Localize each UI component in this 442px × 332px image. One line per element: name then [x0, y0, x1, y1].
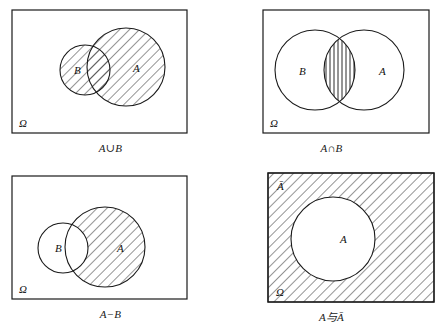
label-a: A — [116, 242, 124, 254]
venn-figure-grid: B A Ω A∪B B A Ω A∩B — [0, 0, 442, 332]
caption-complement: A与Ā — [221, 308, 442, 324]
label-b: B — [299, 65, 306, 77]
circle-a — [291, 197, 375, 281]
panel-complement: A Ā Ω A与Ā — [221, 166, 442, 332]
panel-union: B A Ω A∪B — [0, 0, 221, 166]
label-b: B — [74, 64, 81, 76]
caption-intersection: A∩B — [221, 142, 442, 154]
shaded-difference-region — [12, 176, 187, 299]
label-a-complement: Ā — [276, 180, 284, 192]
label-omega: Ω — [270, 117, 278, 129]
caption-union: A∪B — [0, 142, 221, 155]
label-omega: Ω — [276, 286, 284, 298]
label-a: A — [378, 65, 386, 77]
label-b: B — [55, 242, 62, 254]
panel-difference: B A Ω A−B — [0, 166, 221, 332]
label-a: A — [132, 62, 140, 74]
panel-intersection: B A Ω A∩B — [221, 0, 442, 166]
label-a: A — [339, 233, 347, 245]
label-omega: Ω — [19, 283, 27, 295]
caption-difference: A−B — [0, 308, 221, 320]
label-omega: Ω — [19, 117, 27, 129]
